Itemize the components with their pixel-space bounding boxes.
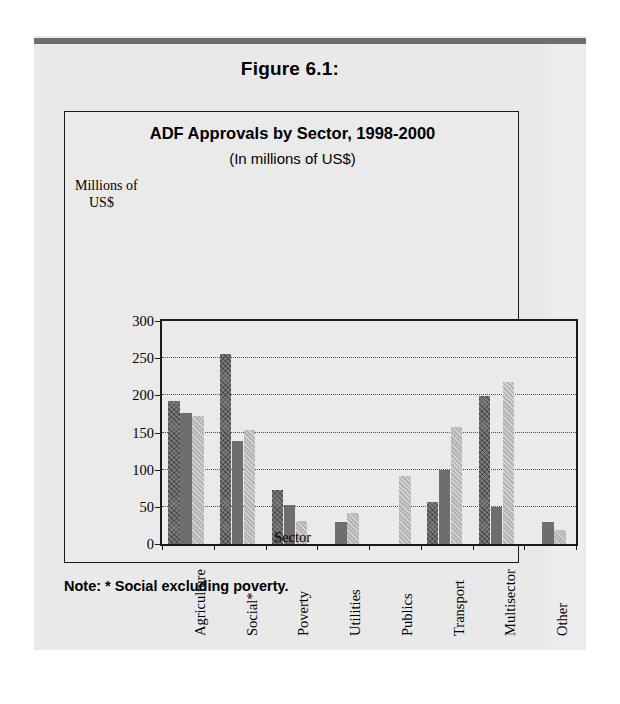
x-axis-label-transport: Transport (451, 580, 468, 636)
x-axis-label-other: Other (554, 603, 571, 636)
x-axis-label-poverty: Poverty (295, 591, 312, 636)
y-tick-mark-150 (155, 433, 160, 434)
y-axis-caption: Millions of US$ (75, 177, 138, 211)
top-horizontal-rule (34, 38, 586, 44)
y-tick-label-150: 150 (108, 424, 154, 441)
bar-group-other (524, 321, 576, 544)
bar-1998-multisector (479, 396, 491, 544)
bar-2000-multisector (503, 382, 515, 544)
bar-group-utilities (317, 321, 369, 544)
y-axis-caption-line1: Millions of (75, 178, 138, 193)
y-tick-mark-300 (155, 321, 160, 322)
y-tick-mark-250 (155, 358, 160, 359)
plot-inner (162, 321, 576, 544)
x-axis-title: Sector (65, 529, 520, 546)
bar-2000-other (554, 530, 566, 544)
x-tick-7 (524, 544, 525, 550)
y-tick-label-300: 300 (108, 313, 154, 330)
bar-group-publics (369, 321, 421, 544)
bar-2000-social (244, 430, 256, 544)
plot-area (160, 319, 578, 546)
bar-group-transport (421, 321, 473, 544)
bar-1998-social (220, 354, 232, 544)
y-tick-mark-50 (155, 507, 160, 508)
bar-group-social (214, 321, 266, 544)
x-tick-last (576, 544, 577, 550)
figure-note: Note: * Social excluding poverty. (64, 578, 289, 594)
y-tick-label-100: 100 (108, 461, 154, 478)
x-axis-label-publics: Publics (399, 593, 416, 636)
y-tick-label-200: 200 (108, 387, 154, 404)
bar-1999-agriculture (180, 413, 192, 544)
chart-subtitle: (In millions of US$) (65, 150, 520, 167)
chart-container: ADF Approvals by Sector, 1998-2000 (In m… (64, 111, 519, 563)
figure-caption: Figure 6.1: (34, 58, 546, 80)
bar-1999-other (542, 522, 554, 544)
x-axis-label-social: Social* (244, 593, 261, 637)
chart-title: ADF Approvals by Sector, 1998-2000 (65, 124, 520, 143)
y-tick-label-250: 250 (108, 350, 154, 367)
page-root: Figure 6.1: ADF Approvals by Sector, 199… (0, 0, 620, 704)
bar-group-agriculture (162, 321, 214, 544)
y-tick-label-50: 50 (108, 498, 154, 515)
x-axis-label-multisector: Multisector (502, 569, 519, 636)
y-tick-mark-200 (155, 395, 160, 396)
bar-group-poverty (266, 321, 318, 544)
x-axis-label-utilities: Utilities (347, 589, 364, 636)
y-tick-mark-100 (155, 470, 160, 471)
bar-group-multisector (473, 321, 525, 544)
y-axis-caption-line2: US$ (89, 194, 138, 211)
bar-2000-agriculture (192, 416, 204, 544)
bar-1998-agriculture (168, 401, 180, 544)
bar-2000-transport (451, 427, 463, 544)
